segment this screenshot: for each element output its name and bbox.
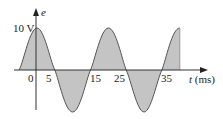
peak-label: 10 V	[13, 23, 35, 34]
tick-label-25: 25	[114, 73, 125, 84]
e-axis-label: e	[41, 7, 46, 18]
t-axis-label: t (ms)	[189, 74, 215, 85]
tick-label-35: 35	[161, 73, 172, 84]
tick-label-5: 5	[46, 73, 52, 84]
tick-label-0: 0	[28, 73, 34, 84]
tick-label-15: 15	[90, 73, 101, 84]
waveform-chart	[0, 0, 223, 119]
e-axis-arrow-icon	[33, 8, 39, 16]
